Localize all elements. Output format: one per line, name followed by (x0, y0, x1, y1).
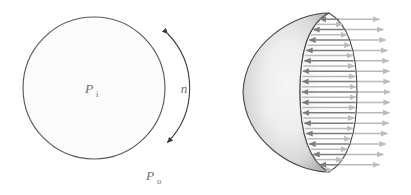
right-panel-group (243, 13, 390, 172)
wall-thickness-base: n (181, 81, 188, 96)
external-pressure-label: P o (145, 168, 161, 186)
sphere-cross-section-circle (23, 17, 165, 159)
figure-container: P i P o n (0, 0, 411, 195)
wall-thickness-label: n (181, 81, 188, 96)
internal-pressure-base: P (84, 81, 93, 96)
external-pressure-base: P (145, 168, 154, 183)
pressure-vessel-figure: P i P o n (0, 0, 411, 195)
left-panel-group: P i P o n (23, 17, 190, 186)
external-pressure-subscript: o (157, 176, 161, 186)
